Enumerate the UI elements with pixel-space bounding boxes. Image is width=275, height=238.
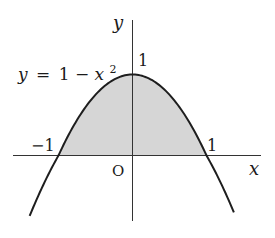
eq-y: y (17, 64, 28, 84)
tick-label-y-1: 1 (138, 51, 148, 70)
eq-one: 1 (59, 64, 70, 84)
x-axis-label: x (249, 158, 259, 179)
equation-label: y = 1 − x 2 (17, 63, 117, 84)
eq-exponent: 2 (110, 63, 117, 76)
eq-minus: − (75, 64, 89, 84)
parabola-figure: y x O −1 1 1 y = 1 − x 2 (0, 0, 275, 238)
eq-equals: = (36, 64, 50, 84)
eq-x: x (95, 64, 105, 84)
y-axis-label: y (112, 12, 124, 33)
tick-label-x-neg1: −1 (31, 136, 55, 155)
tick-label-x-1: 1 (207, 136, 217, 155)
origin-label: O (112, 162, 124, 180)
